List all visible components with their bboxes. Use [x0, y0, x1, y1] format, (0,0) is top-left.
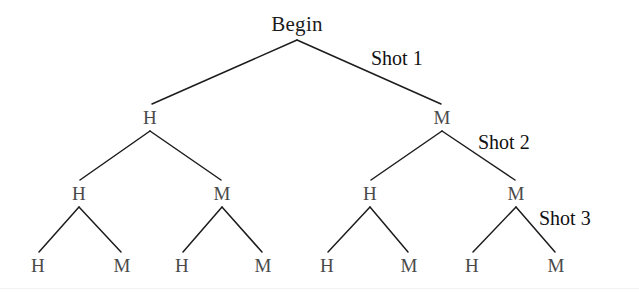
tree-edge-n-mh-to-n-mhm [370, 207, 408, 252]
tree-edge-n-mm-to-n-mmh [473, 207, 516, 252]
tree-node-n-hmh: H [175, 256, 189, 275]
stage-label-shot-2: Shot 2 [478, 132, 530, 152]
tree-node-n-hhh: H [31, 256, 45, 275]
tree-node-n-hmm: M [254, 256, 271, 275]
tree-node-n-mmh: H [465, 256, 479, 275]
tree-diagram-canvas: BeginHMHMHMHMHMHMHM Shot 1Shot 2Shot 3 [0, 0, 639, 294]
tree-node-n-mhm: M [400, 256, 417, 275]
tree-edge-n-hh-to-n-hhm [79, 207, 121, 252]
stage-label-shot-1: Shot 1 [371, 48, 423, 68]
tree-edge-n-m-to-n-mh [371, 131, 442, 180]
tree-node-n-mh: H [363, 184, 377, 203]
tree-edge-n-hm-to-n-hmh [183, 207, 222, 252]
tree-node-n-hhm: M [113, 256, 130, 275]
tree-edge-n-hh-to-n-hhh [39, 207, 79, 252]
tree-edge-n-h-to-n-hm [150, 131, 221, 180]
tree-node-n-h: H [143, 108, 157, 127]
tree-node-n-mhh: H [320, 256, 334, 275]
tree-node-n-mmm: M [547, 256, 564, 275]
tree-node-root: Begin [271, 14, 323, 35]
tree-node-n-mm: M [507, 184, 524, 203]
tree-node-n-m: M [433, 108, 450, 127]
stage-label-shot-3: Shot 3 [539, 208, 591, 228]
tree-node-n-hh: H [72, 184, 86, 203]
tree-node-n-hm: M [213, 184, 230, 203]
tree-edge-n-h-to-n-hh [80, 131, 150, 180]
tree-edge-root-to-n-h [152, 40, 297, 104]
tree-edges-layer [0, 0, 639, 294]
tree-edge-n-hm-to-n-hmm [222, 207, 262, 252]
page-baseline-rule [0, 288, 639, 289]
tree-edge-n-mh-to-n-mhh [328, 207, 370, 252]
